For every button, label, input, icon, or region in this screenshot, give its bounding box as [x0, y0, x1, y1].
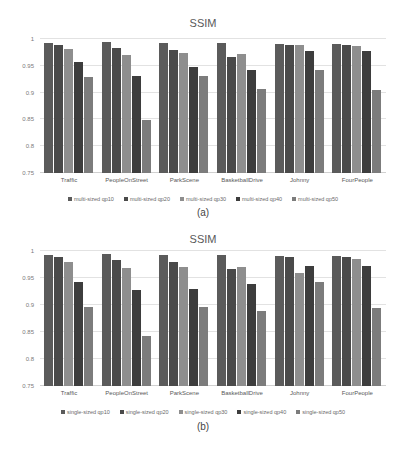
plot-area [40, 39, 386, 173]
bar [159, 255, 168, 386]
bar [159, 43, 168, 173]
bar [372, 90, 381, 173]
bar [247, 284, 256, 386]
bar [142, 336, 151, 386]
bar [169, 262, 178, 386]
y-tick-label: 0.85 [4, 329, 34, 335]
bar [199, 307, 208, 386]
bar [199, 76, 208, 173]
legend-item: single-sized qp20 [120, 409, 169, 415]
legend-item: single-sized qp30 [179, 409, 228, 415]
panel-label: (b) [0, 421, 406, 432]
chart-title: SSIM [0, 17, 406, 29]
bar [285, 257, 294, 386]
plot-area [40, 251, 386, 386]
bar [74, 62, 83, 173]
bar [189, 289, 198, 386]
bar-group-traffic [44, 251, 94, 386]
bar [102, 42, 111, 173]
legend-label: single-sized qp30 [185, 409, 228, 415]
y-tick-label: 0.95 [4, 275, 34, 281]
legend-swatch-icon [120, 410, 124, 414]
bar [295, 273, 304, 386]
x-tick-label: ParkScene [155, 390, 213, 396]
bar [275, 256, 284, 386]
x-tick-label: BasketballDrive [213, 390, 271, 396]
cropped-caption-fragment [0, 444, 406, 453]
bar-group-parkscene [159, 39, 209, 173]
x-tick-label: FourPeople [328, 390, 386, 396]
legend-item: single-sized qp40 [237, 409, 286, 415]
bar [315, 70, 324, 173]
bar [305, 51, 314, 173]
legend-item: multi-sized qp30 [180, 196, 226, 202]
x-tick-label: Traffic [40, 390, 98, 396]
bar [295, 45, 304, 173]
panel-label: (a) [0, 207, 406, 218]
x-tick-label: Johnny [271, 177, 329, 183]
chart-panel-b: SSIM 10.950.90.850.80.75 TrafficPeopleOn… [0, 225, 406, 437]
bar [132, 76, 141, 173]
legend-item: multi-sized qp40 [236, 196, 282, 202]
bar-group-basketballdrive [217, 251, 267, 386]
legend-label: single-sized qp50 [302, 409, 345, 415]
y-tick-label: 0.8 [4, 356, 34, 362]
bar [54, 45, 63, 173]
bar [237, 54, 246, 173]
legend-swatch-icon [124, 197, 128, 201]
bar [285, 45, 294, 173]
legend-swatch-icon [68, 197, 72, 201]
bar [64, 262, 73, 386]
bar [257, 311, 266, 386]
bar [84, 307, 93, 386]
bar [169, 50, 178, 173]
bar [342, 257, 351, 386]
bar [112, 48, 121, 173]
x-tick-label: BasketballDrive [213, 177, 271, 183]
x-tick-label: Traffic [40, 177, 98, 183]
bar-group-johnny [275, 39, 325, 173]
legend-label: single-sized qp20 [126, 409, 169, 415]
bar [352, 46, 361, 173]
bar-group-johnny [275, 251, 325, 386]
legend-swatch-icon [180, 197, 184, 201]
bar [257, 89, 266, 173]
legend-label: multi-sized qp20 [130, 196, 170, 202]
legend-label: single-sized qp10 [67, 409, 110, 415]
bar [74, 282, 83, 386]
x-tick-label: Johnny [271, 390, 329, 396]
bar [217, 255, 226, 386]
y-tick-label: 1 [4, 248, 34, 254]
y-tick-label: 0.8 [4, 143, 34, 149]
legend-item: single-sized qp10 [61, 409, 110, 415]
bar-group-peopleonstreet [102, 39, 152, 173]
bar [179, 267, 188, 386]
bar [332, 256, 341, 386]
legend-item: multi-sized qp50 [292, 196, 338, 202]
y-tick-label: 0.9 [4, 90, 34, 96]
bar [315, 282, 324, 386]
bar [54, 257, 63, 386]
y-tick-label: 0.85 [4, 116, 34, 122]
legend-swatch-icon [61, 410, 65, 414]
bar [372, 308, 381, 386]
bar-group-fourpeople [332, 251, 382, 386]
bar [44, 43, 53, 173]
legend: single-sized qp10single-sized qp20single… [0, 409, 406, 415]
bar [179, 53, 188, 173]
bar [305, 266, 314, 386]
legend-label: multi-sized qp50 [298, 196, 338, 202]
chart-panel-a: SSIM 10.950.90.850.80.75 TrafficPeopleOn… [0, 0, 406, 225]
x-tick-label: PeopleOnStreet [98, 177, 156, 183]
chart-title: SSIM [0, 233, 406, 245]
bar [122, 55, 131, 173]
x-tick-label: PeopleOnStreet [98, 390, 156, 396]
bar [64, 49, 73, 173]
legend-label: multi-sized qp10 [74, 196, 114, 202]
bar [227, 57, 236, 173]
bar-group-fourpeople [332, 39, 382, 173]
legend-swatch-icon [296, 410, 300, 414]
bar [362, 51, 371, 173]
legend-label: multi-sized qp40 [242, 196, 282, 202]
legend-swatch-icon [236, 197, 240, 201]
